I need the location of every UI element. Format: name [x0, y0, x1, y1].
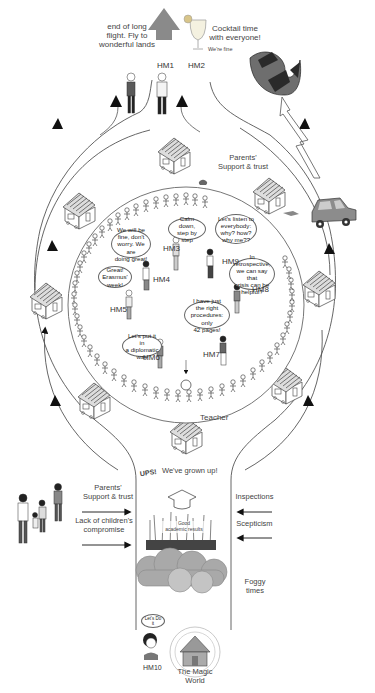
foggy-times-label: Foggy times — [240, 578, 270, 595]
speech-bubble-hm10: Let's Do it — [141, 614, 165, 628]
teacher-figure — [181, 380, 191, 390]
hm2-figure — [157, 73, 167, 114]
family-figure — [18, 484, 62, 544]
grown-up-label: We've grown up! — [162, 467, 218, 476]
fog-cloud-icon — [136, 548, 227, 593]
speech-bubble-hm9: Let's listen to everybody: why? how? why… — [215, 214, 257, 244]
hm1-figure — [127, 73, 135, 113]
force-left-lack: Lack of children's compromise — [70, 517, 138, 534]
hm2-label: HM2 — [188, 61, 205, 70]
arrow-up-icon — [299, 118, 310, 129]
arrow-up-icon — [52, 118, 63, 129]
diagram-canvas — [0, 0, 375, 693]
hm10-figure — [143, 633, 158, 660]
teacher-label: Teacher — [200, 413, 228, 422]
speech-bubble-hm4: We will be fine, don't worry. We are doi… — [111, 230, 151, 258]
academic-results-label: Good academic results — [162, 521, 206, 533]
house-icon — [158, 138, 190, 174]
lizard-icon — [283, 211, 299, 216]
arrow-up-icon — [176, 95, 188, 107]
cocktail-glass-icon — [184, 15, 206, 49]
house-icon — [63, 193, 95, 229]
snail-icon — [199, 180, 207, 185]
outer-ring-label: Parents' Support & trust — [208, 154, 278, 171]
speech-bubble-hm3: Calm down, step by step — [168, 218, 206, 240]
speech-bubble-hm7: I have just the right procedures: only 4… — [184, 301, 230, 329]
hm5-label: HM5 — [110, 305, 127, 314]
graduation-cap-icon — [168, 490, 196, 509]
arrow-up-icon — [50, 395, 61, 406]
hm9-figure — [207, 249, 213, 278]
hm6-label: HM6 — [143, 353, 160, 362]
force-right-inspections: Inspections — [232, 493, 277, 502]
car-icon — [312, 198, 356, 228]
hm1-caption: end of long flight. Fly to wonderful lan… — [92, 22, 162, 50]
hm1-label: HM1 — [157, 61, 174, 70]
bird-icon — [250, 52, 301, 95]
hm7-label: HM7 — [203, 350, 220, 359]
hm4-label: HM4 — [153, 275, 170, 284]
hm7-figure — [220, 336, 226, 365]
house-icon — [303, 271, 335, 307]
magic-world-label: The Magic World — [172, 668, 218, 685]
speech-bubble-hm5: Great! Erasmus' week! — [98, 266, 132, 288]
hm4-figure — [143, 261, 149, 290]
force-left-parents: Parents' Support & trust — [78, 484, 138, 501]
house-icon — [253, 178, 285, 214]
arrow-up-icon — [110, 95, 122, 107]
hm2-subcaption: We're fine — [208, 46, 248, 52]
hm10-label: HM10 — [143, 664, 162, 671]
hm9-label: HM9 — [222, 257, 239, 266]
arrow-up-icon — [47, 240, 58, 251]
hm3-label: HM3 — [163, 244, 180, 253]
hm8-label: HM8 — [252, 285, 269, 294]
force-right-scepticism: Scepticism — [232, 520, 277, 529]
hm2-caption: Cocktail time with everyone! — [205, 24, 265, 42]
